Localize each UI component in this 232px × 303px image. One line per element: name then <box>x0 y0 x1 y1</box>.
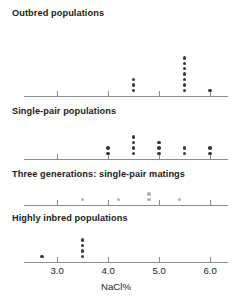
data-point <box>157 141 160 144</box>
data-point <box>81 198 84 201</box>
data-point <box>132 146 135 149</box>
x-tick-label-6.0: 6.0 <box>203 265 216 276</box>
x-tick-label-4.0: 4.0 <box>101 265 114 276</box>
x-tick-label-5.0: 5.0 <box>152 265 165 276</box>
x-axis-tick-6.0 <box>210 257 211 262</box>
data-point <box>183 72 186 75</box>
data-point <box>208 152 211 155</box>
data-point <box>157 152 160 155</box>
x-axis-tick-3.0 <box>57 91 58 96</box>
x-axis-tick-5.0 <box>159 200 160 205</box>
data-point <box>132 83 135 86</box>
x-axis-tick-3.0 <box>57 154 58 159</box>
data-point <box>208 89 211 92</box>
data-point <box>183 67 186 70</box>
x-axis-title: NaCl% <box>0 281 232 292</box>
data-point <box>81 255 84 258</box>
panel-title-highly-inbred-populations: Highly inbred populations <box>12 213 128 223</box>
data-point <box>183 78 186 81</box>
panel-title-three-generations-single-pair-matings: Three generations: single-pair matings <box>12 169 185 179</box>
x-axis-tick-4.0 <box>108 200 109 205</box>
data-point <box>183 83 186 86</box>
data-point <box>132 135 135 138</box>
x-axis-tick-5.0 <box>159 91 160 96</box>
x-axis-tick-4.0 <box>108 91 109 96</box>
data-point <box>81 244 84 247</box>
data-point <box>132 89 135 92</box>
data-point <box>147 192 150 195</box>
data-point <box>117 198 120 201</box>
data-point <box>208 146 211 149</box>
data-point <box>178 198 181 201</box>
dot-plot-figure: Outbred populationsSingle-pair populatio… <box>0 0 232 303</box>
x-axis-tick-3.0 <box>57 200 58 205</box>
data-point <box>183 89 186 92</box>
x-axis-tick-6.0 <box>210 200 211 205</box>
x-tick-label-3.0: 3.0 <box>50 265 63 276</box>
data-point <box>147 198 150 201</box>
x-axis-tick-3.0 <box>57 257 58 262</box>
data-point <box>106 146 109 149</box>
data-point <box>132 78 135 81</box>
x-axis-line <box>24 262 228 263</box>
x-axis-tick-4.0 <box>108 257 109 262</box>
panel-title-single-pair-populations: Single-pair populations <box>12 106 116 116</box>
data-point <box>132 141 135 144</box>
data-point <box>81 249 84 252</box>
data-point <box>106 152 109 155</box>
panel-title-outbred-populations: Outbred populations <box>12 8 104 18</box>
data-point <box>183 152 186 155</box>
x-axis-tick-5.0 <box>159 257 160 262</box>
data-point <box>157 146 160 149</box>
x-axis-line <box>24 96 228 97</box>
x-axis-line <box>24 159 228 160</box>
data-point <box>183 56 186 59</box>
x-axis-tick-labels: 3.04.05.06.0 <box>0 265 232 279</box>
x-axis-line <box>24 205 228 206</box>
data-point <box>132 152 135 155</box>
data-point <box>40 255 43 258</box>
data-point <box>81 238 84 241</box>
data-point <box>183 146 186 149</box>
data-point <box>183 62 186 65</box>
